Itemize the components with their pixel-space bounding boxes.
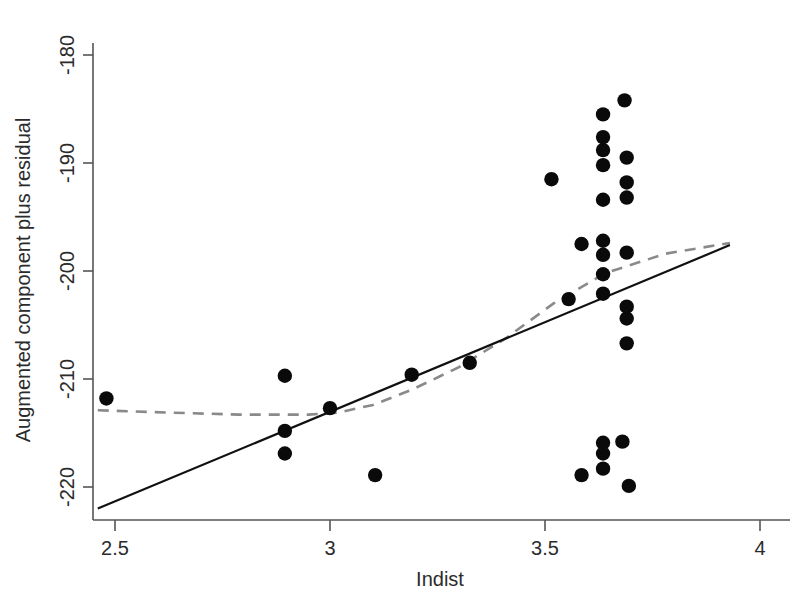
data-point: [574, 237, 588, 251]
y-tick-label-3: -210: [56, 359, 78, 399]
data-point: [596, 107, 610, 121]
y-tick-label-2: -200: [56, 251, 78, 291]
x-tick-label-0: 2.5: [101, 537, 129, 559]
data-point: [596, 267, 610, 281]
data-point: [620, 150, 634, 164]
x-tick-label-3: 4: [754, 537, 765, 559]
data-point: [99, 391, 113, 405]
data-point: [620, 311, 634, 325]
data-point: [596, 446, 610, 460]
data-point: [620, 245, 634, 259]
chart-figure: -180 -190 -200 -210 -220 Augmented compo…: [0, 0, 806, 608]
data-point: [620, 336, 634, 350]
data-point: [544, 172, 558, 186]
data-point: [463, 356, 477, 370]
data-point: [368, 468, 382, 482]
x-tick-label-2: 3.5: [531, 537, 559, 559]
data-point: [596, 248, 610, 262]
y-tick-label-1: -190: [56, 143, 78, 183]
data-point: [323, 401, 337, 415]
data-point: [615, 434, 629, 448]
data-point: [278, 424, 292, 438]
data-point: [617, 93, 631, 107]
y-tick-label-4: -220: [56, 467, 78, 507]
data-point: [596, 193, 610, 207]
data-point: [622, 479, 636, 493]
plot-background: [0, 0, 806, 608]
data-point: [574, 468, 588, 482]
data-point: [596, 143, 610, 157]
y-tick-label-0: -180: [56, 35, 78, 75]
data-point: [596, 234, 610, 248]
data-point: [620, 190, 634, 204]
data-point: [596, 130, 610, 144]
data-point: [620, 175, 634, 189]
data-point: [596, 158, 610, 172]
x-axis-title: Indist: [416, 568, 464, 590]
data-point: [596, 286, 610, 300]
data-point: [405, 367, 419, 381]
data-point: [278, 369, 292, 383]
data-point: [596, 461, 610, 475]
x-tick-label-1: 3: [324, 537, 335, 559]
data-point: [561, 292, 575, 306]
data-point: [278, 446, 292, 460]
scatter-plot-svg: -180 -190 -200 -210 -220 Augmented compo…: [0, 0, 806, 608]
y-axis-title: Augmented component plus residual: [12, 118, 34, 443]
